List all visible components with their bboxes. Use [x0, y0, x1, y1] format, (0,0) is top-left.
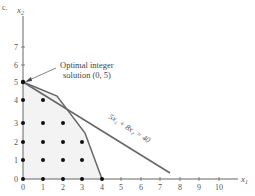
- x-tick-label: 8: [178, 183, 182, 192]
- integer-point: [41, 140, 45, 144]
- integer-point: [21, 158, 25, 162]
- integer-point: [80, 140, 84, 144]
- integer-point: [61, 158, 65, 162]
- integer-program-chart: c. x2 x1 0 1 2 3 4 5 6 7 8 9 10 0 1 2 3: [0, 0, 255, 196]
- integer-point: [21, 177, 25, 181]
- x-tick-label: 1: [41, 183, 45, 192]
- x-tick-label: 3: [80, 183, 84, 192]
- x-tick-label: 5: [119, 183, 123, 192]
- annotation-arrowhead-icon: [25, 77, 32, 82]
- y-tick-label: 0: [14, 175, 18, 184]
- x-tick-label: 9: [197, 183, 201, 192]
- integer-point: [21, 121, 25, 125]
- optimal-integer-point: [21, 80, 25, 84]
- x-tick-label: 10: [215, 183, 223, 192]
- integer-point: [21, 98, 25, 102]
- integer-point: [41, 121, 45, 125]
- figure-corner-mark: c.: [2, 3, 8, 12]
- annotation-line-1: Optimal integer: [60, 60, 114, 70]
- x-axis-label: x1: [240, 174, 248, 185]
- integer-point: [80, 177, 84, 181]
- integer-point: [41, 158, 45, 162]
- integer-point: [21, 140, 25, 144]
- y-tick-label: 2: [14, 138, 18, 147]
- y-tick-label: 6: [14, 61, 18, 70]
- x-tick-label: 0: [21, 183, 25, 192]
- integer-point: [41, 98, 45, 102]
- x-tick-label: 6: [139, 183, 143, 192]
- y-tick-label: 3: [14, 119, 18, 128]
- annotation-line-2: solution (0, 5): [63, 70, 111, 80]
- x-tick-label: 2: [61, 183, 65, 192]
- y-tick-label: 4: [14, 96, 18, 105]
- y-tick-label: 1: [14, 156, 18, 165]
- x-tick-labels: 0 1 2 3 4 5 6 7 8 9 10: [21, 183, 223, 192]
- y-tick-labels: 0 1 2 3 4 5 6 7: [14, 43, 18, 184]
- integer-point: [61, 140, 65, 144]
- y-tick-label: 5: [14, 78, 18, 87]
- x-axis-label-sub: 1: [245, 179, 248, 185]
- objective-line-label: 5x₁ + 8x₂ = 40: [107, 112, 152, 145]
- integer-point: [80, 158, 84, 162]
- x-tick-label: 7: [158, 183, 162, 192]
- feasible-region: [23, 82, 102, 179]
- integer-point: [61, 121, 65, 125]
- y-axis-label-sub: 2: [21, 10, 24, 16]
- integer-point: [61, 177, 65, 181]
- y-tick-label: 7: [14, 43, 18, 52]
- integer-point: [41, 177, 45, 181]
- integer-point: [100, 177, 104, 181]
- y-axis-label: x2: [16, 5, 24, 16]
- x-tick-label: 4: [100, 183, 104, 192]
